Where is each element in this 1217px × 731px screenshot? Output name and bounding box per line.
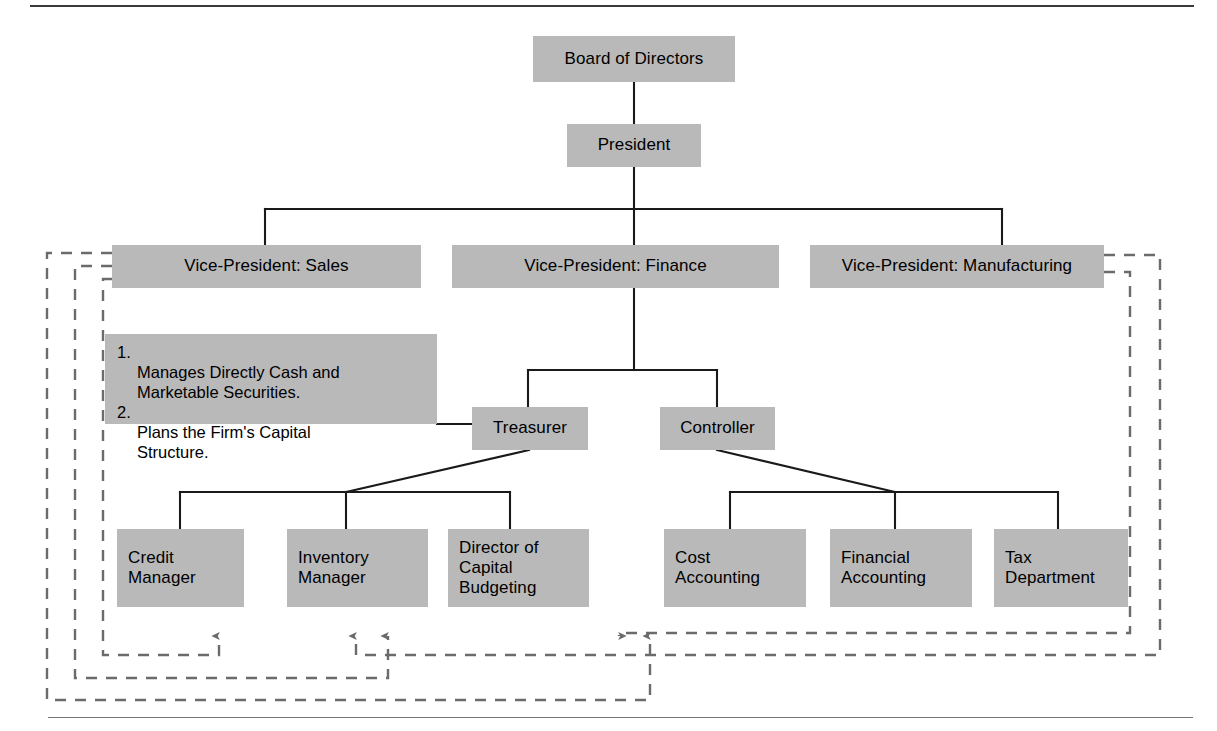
top-rule <box>30 5 1194 7</box>
node-financial-accounting[interactable]: Financial Accounting <box>830 529 972 607</box>
node-credit-manager[interactable]: Credit Manager <box>117 529 244 607</box>
flow-sales-to-capital-budgeting <box>47 253 650 700</box>
node-tax-department[interactable]: Tax Department <box>994 529 1128 607</box>
node-treasurer[interactable]: Treasurer <box>472 407 588 450</box>
node-inventory-manager[interactable]: Inventory Manager <box>287 529 428 607</box>
flow-sales-to-inventory <box>75 266 388 678</box>
node-vp-sales[interactable]: Vice-President: Sales <box>112 245 421 288</box>
node-vp-finance[interactable]: Vice-President: Finance <box>452 245 779 288</box>
org-chart-figure: Board of Directors President Vice-Presid… <box>0 0 1217 731</box>
note-item-text: Manages Directly Cash and Marketable Sec… <box>137 363 340 401</box>
dashed-flow-connectors <box>47 253 1160 700</box>
note-item-number: 2. <box>117 403 131 423</box>
note-item: 1.Manages Directly Cash and Marketable S… <box>117 343 427 402</box>
node-vp-manufacturing[interactable]: Vice-President: Manufacturing <box>810 245 1104 288</box>
note-treasurer-duties: 1.Manages Directly Cash and Marketable S… <box>105 334 437 424</box>
node-cost-accounting[interactable]: Cost Accounting <box>664 529 806 607</box>
node-director-of-capital-budgeting[interactable]: Director of Capital Budgeting <box>448 529 589 607</box>
note-list: 1.Manages Directly Cash and Marketable S… <box>117 343 427 463</box>
note-item-text: Plans the Firm's Capital Structure. <box>137 423 311 461</box>
node-president[interactable]: President <box>567 124 701 167</box>
node-controller[interactable]: Controller <box>660 407 775 450</box>
node-board-of-directors[interactable]: Board of Directors <box>533 36 735 82</box>
bottom-rule <box>48 717 1193 718</box>
note-item: 2.Plans the Firm's Capital Structure. <box>117 403 427 462</box>
note-item-number: 1. <box>117 343 131 363</box>
